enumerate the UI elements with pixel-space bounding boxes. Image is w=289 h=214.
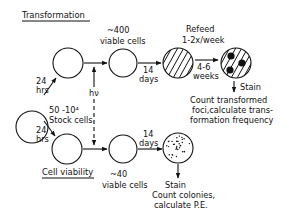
top-viable-count: ~400 [107, 25, 130, 35]
top-24-hrs: hrs [36, 85, 49, 95]
stock-cells-count: 50 -10⁴ [49, 105, 79, 115]
colony-dot [180, 145, 181, 146]
top-stain-label: Stain [240, 82, 261, 92]
top-24h-dish [53, 48, 83, 78]
colony-dot [189, 143, 190, 144]
colony-dot [169, 154, 170, 155]
colony-dot [168, 140, 169, 141]
top-14-days: days [139, 74, 158, 84]
bottom-result-line2: calculate P.E. [154, 200, 208, 210]
colony-dot [177, 141, 178, 142]
colony-dots [166, 135, 190, 158]
transformed-foci-dish [221, 48, 251, 78]
stock-cells-label: Stock cells [49, 115, 93, 125]
refeed-label: Refeed [186, 24, 215, 34]
bottom-viable-count: ~40 [110, 169, 127, 179]
irradiation-label: hν [89, 88, 99, 98]
bottom-stain-label: Stain [165, 180, 186, 190]
foci-hatch-lines [212, 44, 262, 80]
colonies-dish [163, 133, 193, 163]
colony-dot [184, 151, 185, 152]
colony-dot [168, 146, 169, 147]
transformed-focus-1 [227, 52, 234, 59]
colony-dot [179, 147, 180, 148]
colony-dot [176, 156, 177, 157]
transformation-title: Transformation [21, 10, 85, 20]
bottom-24-hrs: hrs [36, 134, 49, 144]
colony-dot [176, 147, 177, 148]
colony-dot [172, 154, 173, 155]
colony-dot [179, 143, 180, 144]
refeed-frequency: 1-2x/week [182, 35, 225, 45]
colony-dot [176, 137, 177, 138]
colony-dot [183, 138, 184, 139]
colony-dot [171, 157, 172, 158]
colony-dot [179, 135, 180, 136]
colony-dot [181, 137, 182, 138]
transformed-focus-3 [226, 66, 233, 73]
transformation-assay-diagram: Transformation 50 -10⁴ Stock cells 24 hr… [0, 0, 289, 214]
bottom-viable-label: viable cells [102, 180, 148, 190]
bottom-viable-dish [109, 135, 137, 163]
bottom-24h-dish [52, 134, 82, 164]
top-viable-label: viable cells [100, 36, 146, 46]
colony-dot [175, 149, 176, 150]
colony-dot [173, 144, 174, 145]
colony-dot [171, 141, 172, 142]
top-viable-dish [109, 49, 137, 77]
cell-viability-title: Cell viability [42, 167, 93, 177]
colony-dot [177, 149, 178, 150]
colony-dot [182, 142, 183, 143]
colony-dot [182, 139, 183, 140]
bottom-result-line1: Count colonies, [152, 190, 215, 200]
bottom-14-days: days [139, 138, 158, 148]
colony-dot [176, 146, 177, 147]
colony-dot [182, 151, 183, 152]
top-result-line1: Count transformed [190, 95, 267, 105]
colony-dot [166, 145, 167, 146]
weeks-label: weeks [193, 71, 219, 81]
top-result-line3: formation frequency [190, 115, 274, 125]
top-result-line2: foci,calculate trans- [192, 105, 273, 115]
confluent-monolayer-dish [163, 48, 193, 78]
transformed-focus-2 [238, 59, 245, 66]
